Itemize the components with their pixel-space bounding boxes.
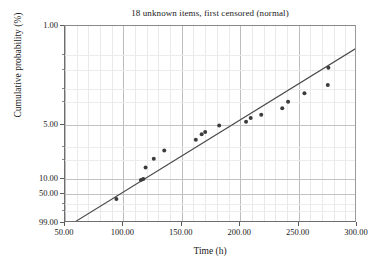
y-tick-label: 50.00	[18, 188, 58, 198]
data-point	[114, 197, 118, 201]
x-tick-mark	[181, 222, 182, 226]
y-tick-mark-minor	[62, 146, 65, 147]
y-tick-label: 99.00	[18, 217, 58, 227]
y-axis-title: Cumulative probability (%)	[13, 0, 23, 145]
y-tick-mark-minor	[62, 159, 65, 160]
y-tick-mark-minor	[62, 54, 65, 55]
data-point	[203, 130, 207, 134]
x-axis-title: Time (h)	[64, 246, 356, 256]
y-tick-mark	[60, 178, 64, 179]
y-tick-mark-minor	[62, 88, 65, 89]
x-tick-mark	[239, 222, 240, 226]
y-tick-label: 1.00	[18, 20, 58, 30]
data-point	[217, 124, 221, 128]
x-tick-mark	[122, 222, 123, 226]
data-point	[141, 177, 145, 181]
y-tick-mark	[60, 124, 64, 125]
data-point	[326, 66, 330, 70]
y-tick-mark-minor	[62, 101, 65, 102]
data-points-layer	[65, 26, 356, 222]
data-point	[326, 83, 330, 87]
data-point	[286, 100, 290, 104]
data-point	[280, 106, 284, 110]
y-tick-mark-minor	[62, 210, 65, 211]
y-tick-mark	[60, 193, 64, 194]
y-tick-mark-minor	[62, 69, 65, 70]
y-tick-mark-minor	[62, 203, 65, 204]
data-point	[249, 116, 253, 120]
x-tick-label: 100.00	[111, 227, 134, 237]
x-tick-label: 50.00	[54, 227, 73, 237]
x-tick-mark	[356, 222, 357, 226]
data-point	[244, 120, 248, 124]
y-tick-mark	[60, 25, 64, 26]
x-tick-label: 150.00	[169, 227, 192, 237]
x-tick-label: 300.00	[344, 227, 367, 237]
data-point	[302, 91, 306, 95]
x-tick-mark	[298, 222, 299, 226]
data-point	[194, 138, 198, 142]
chart-title: 18 unknown items, first censored (normal…	[64, 8, 356, 18]
data-point	[144, 165, 148, 169]
probability-plot-figure: 18 unknown items, first censored (normal…	[0, 0, 374, 270]
x-tick-label: 250.00	[286, 227, 309, 237]
x-tick-mark	[64, 222, 65, 226]
data-point	[162, 148, 166, 152]
data-point	[200, 132, 204, 136]
data-point	[259, 113, 263, 117]
y-tick-label: 5.00	[18, 119, 58, 129]
y-tick-mark	[60, 222, 64, 223]
data-point	[152, 157, 156, 161]
plot-area	[64, 25, 356, 222]
y-tick-label: 10.00	[18, 173, 58, 183]
x-tick-label: 200.00	[228, 227, 251, 237]
